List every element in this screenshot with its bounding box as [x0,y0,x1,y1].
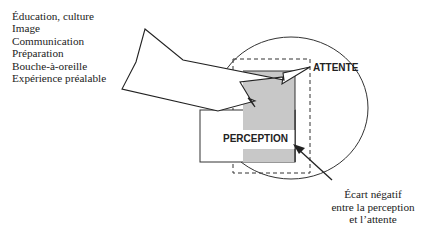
perception-label: PERCEPTION [223,133,288,144]
factor-item: Éducation, culture [12,10,106,22]
factor-item: Expérience préalable [12,72,106,84]
caption-line: et l’attente [318,213,423,226]
gap-pointer-line [297,148,332,180]
factor-item: Image [12,22,106,34]
factor-item: Communication [12,35,106,47]
caption-line: Écart négatif [318,188,423,201]
caption-line: entre la perception [318,201,423,214]
influence-factors-list: Éducation, culture Image Communication P… [12,10,106,84]
expectation-label: ATTENTE [313,62,358,73]
factor-item: Préparation [12,47,106,59]
gap-caption: Écart négatif entre la perception et l’a… [318,188,423,226]
factor-item: Bouche-à-oreille [12,60,106,72]
